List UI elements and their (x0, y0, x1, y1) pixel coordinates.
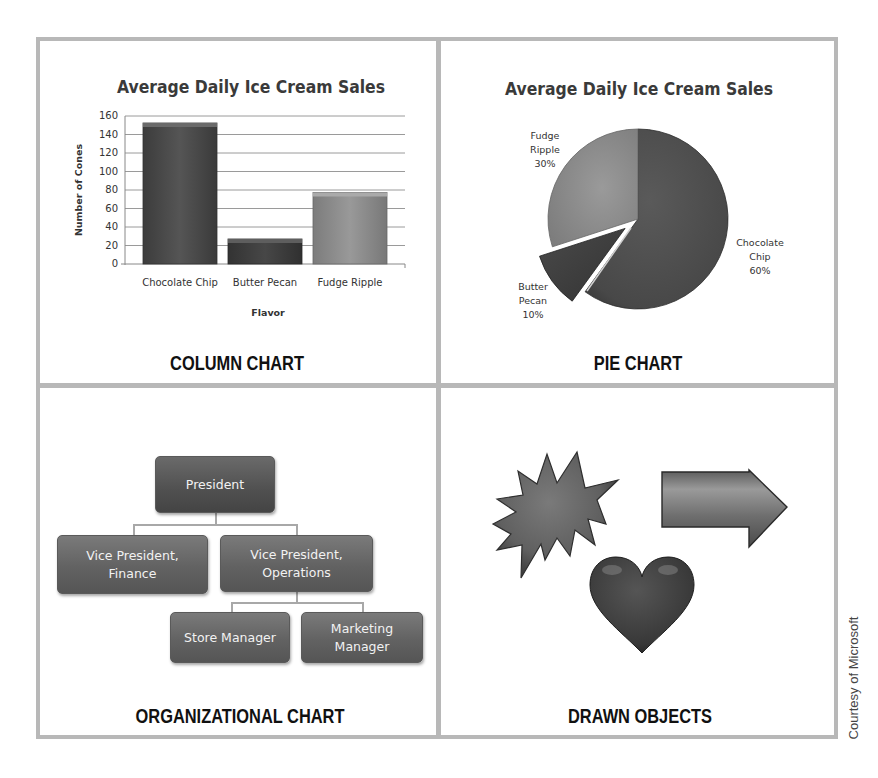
drawn-objects-caption: DRAWN OBJECTS (568, 705, 712, 728)
drawn-shapes (0, 0, 878, 778)
arrow-right-icon (662, 470, 787, 547)
credit-text: Courtesy of Microsoft (846, 617, 861, 740)
starburst-icon (493, 452, 618, 578)
